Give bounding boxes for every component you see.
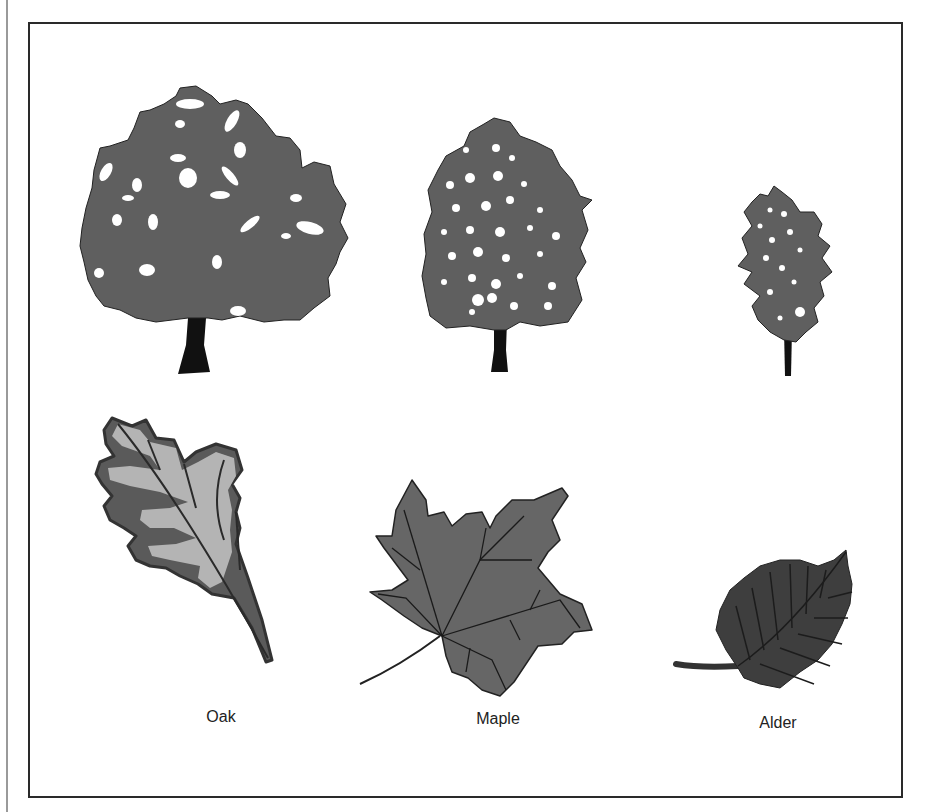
species-illustration (0, 0, 932, 812)
alder-tree-icon (738, 186, 832, 376)
alder-label: Alder (759, 714, 796, 732)
maple-label: Maple (476, 710, 520, 728)
oak-tree-icon (80, 86, 348, 374)
oak-leaf-icon (96, 418, 272, 662)
maple-leaf-icon (360, 480, 592, 696)
alder-leaf-icon (676, 550, 852, 688)
maple-tree-icon (422, 118, 592, 372)
oak-label: Oak (206, 708, 235, 726)
